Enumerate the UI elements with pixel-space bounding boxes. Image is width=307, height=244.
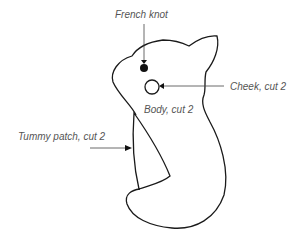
cheek-circle	[145, 80, 159, 94]
label-body: Body, cut 2	[144, 104, 194, 115]
body-outline	[112, 36, 225, 228]
label-french-knot: French knot	[115, 9, 169, 20]
pattern-diagram: French knot Cheek, cut 2 Body, cut 2 Tum…	[0, 0, 307, 244]
label-cheek: Cheek, cut 2	[230, 81, 287, 92]
tummy-arrowhead	[125, 145, 132, 151]
french-knot-dot	[140, 64, 148, 72]
cheek-arrowhead	[159, 83, 164, 89]
french-knot-arrowhead	[141, 60, 147, 64]
tummy-patch-outline	[133, 113, 170, 189]
label-tummy-patch: Tummy patch, cut 2	[18, 131, 106, 142]
